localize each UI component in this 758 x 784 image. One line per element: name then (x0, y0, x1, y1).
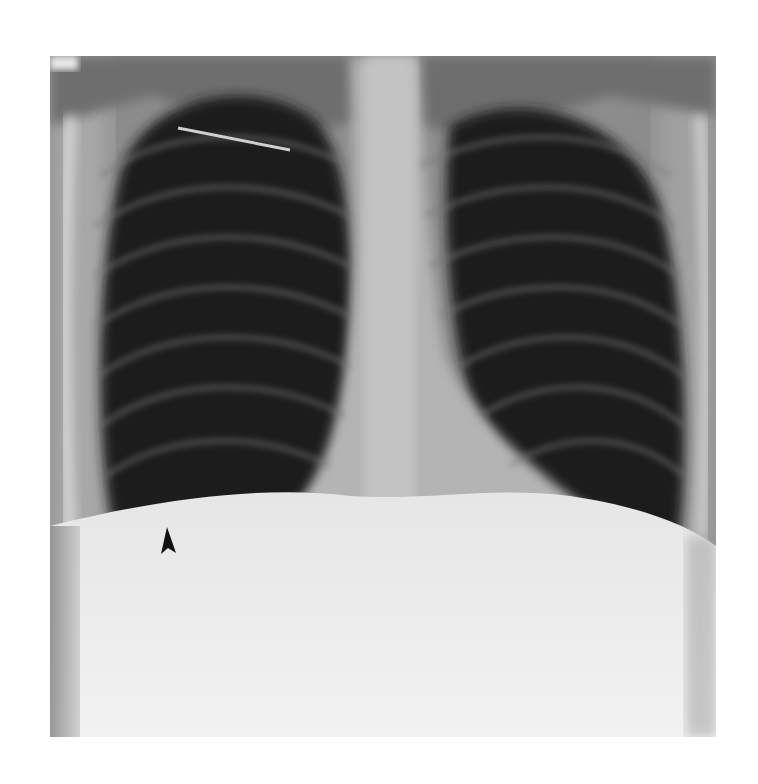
arrowhead-marker-icon (159, 526, 179, 556)
chest-xray-image (50, 56, 716, 737)
